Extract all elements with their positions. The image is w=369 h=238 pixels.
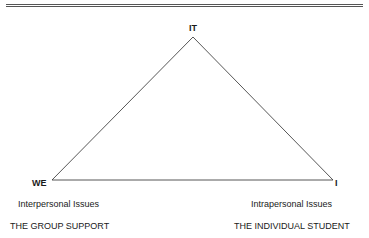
individual-student-caption: THE INDIVIDUAL STUDENT (234, 221, 350, 231)
vertex-label-i: I (335, 178, 338, 188)
group-support-caption: THE GROUP SUPPORT (10, 221, 109, 231)
interpersonal-issues-label: Interpersonal Issues (18, 199, 99, 209)
vertex-label-we: WE (32, 178, 47, 188)
vertex-label-it: IT (189, 23, 197, 33)
intrapersonal-issues-label: Intrapersonal Issues (251, 199, 332, 209)
